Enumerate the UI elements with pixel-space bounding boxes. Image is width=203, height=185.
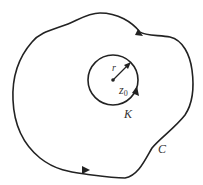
inner-circle-label: K xyxy=(124,108,132,120)
center-label-sub: 0 xyxy=(124,89,128,98)
radius-label: r xyxy=(112,63,116,73)
outer-arrow-bottom-icon xyxy=(82,166,90,174)
contour-diagram: r z0 K C xyxy=(0,0,203,185)
diagram-canvas xyxy=(0,0,203,185)
outer-contour-label: C xyxy=(158,143,166,155)
center-label: z0 xyxy=(119,84,128,98)
